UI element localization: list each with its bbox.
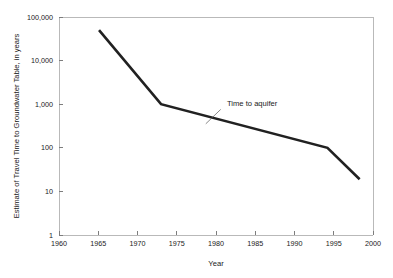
y-tick-label: 100 [41, 143, 53, 152]
x-tick-label: 2000 [365, 239, 381, 248]
travel-time-line-chart: 1101001,00010,000100,000 196019651970197… [0, 0, 393, 278]
chart-container: 1101001,00010,000100,000 196019651970197… [0, 0, 393, 278]
x-tick-label: 1990 [287, 239, 303, 248]
y-tick-label: 1,000 [35, 100, 53, 109]
y-tick-label: 10 [45, 187, 53, 196]
x-tick-label: 1985 [247, 239, 263, 248]
y-axis-title: Estimate of Travel Time to Groundwater T… [12, 33, 21, 218]
y-tick-label: 100,000 [27, 13, 53, 22]
x-tick-label: 1995 [326, 239, 342, 248]
x-tick-label: 1980 [208, 239, 224, 248]
annotation-label-time-to-aquifer: Time to aquifer [227, 99, 278, 108]
x-tick-label: 1960 [51, 239, 67, 248]
x-tick-label: 1975 [169, 239, 185, 248]
y-tick-label: 10,000 [31, 56, 53, 65]
x-tick-label: 1965 [90, 239, 106, 248]
x-axis-title: Year [208, 259, 224, 268]
x-tick-label: 1970 [130, 239, 146, 248]
x-axis-tick-labels: 196019651970197519801985199019952000 [51, 239, 381, 248]
